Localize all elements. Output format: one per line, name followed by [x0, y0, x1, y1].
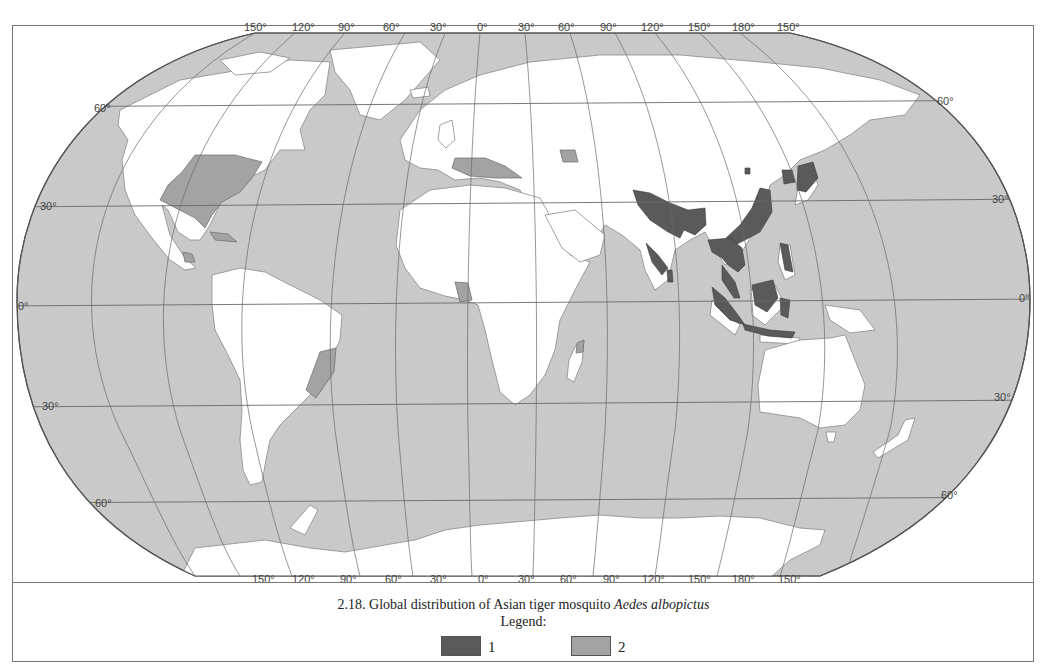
sri-lanka	[667, 270, 673, 282]
lon-label-bottom: 150°	[688, 573, 711, 585]
legend-swatch-dark	[441, 636, 481, 656]
lon-label-top: 60°	[383, 21, 400, 33]
lon-label-top: 90°	[600, 21, 617, 33]
lat-label-right: 0°	[1019, 292, 1030, 304]
legend-label: 2	[618, 638, 626, 656]
lon-label-top: 60°	[558, 21, 575, 33]
lon-label-bottom: 90°	[340, 573, 357, 585]
legend-item-2: 2	[571, 634, 626, 656]
lat-label-left: 60°	[94, 102, 111, 114]
lon-label-bottom: 90°	[603, 573, 620, 585]
lon-label-top: 150°	[688, 21, 711, 33]
australia	[758, 335, 865, 428]
legend: 1 2	[0, 634, 1047, 656]
lon-label-top: 180°	[732, 21, 755, 33]
lat-label-left: 30°	[40, 200, 57, 212]
lat-label-right: 60°	[941, 489, 958, 501]
lon-label-bottom: 150°	[252, 573, 275, 585]
legend-label: 1	[488, 638, 496, 656]
world-map: 150° 120° 90° 60° 30° 0° 30° 60° 90° 120…	[0, 0, 1047, 590]
lat-label-right: 30°	[992, 193, 1009, 205]
lon-label-bottom: 150°	[778, 573, 801, 585]
lon-label-bottom: 30°	[430, 573, 447, 585]
caption-number: 2.18.	[338, 597, 366, 612]
lat-label-left: 30°	[42, 400, 59, 412]
lon-label-top: 0°	[477, 21, 488, 33]
legend-title: Legend:	[0, 614, 1047, 630]
lon-label-top: 30°	[518, 21, 535, 33]
lon-label-top: 150°	[244, 21, 267, 33]
caption-text: Global distribution of Asian tiger mosqu…	[369, 597, 611, 612]
lon-label-top: 120°	[292, 21, 315, 33]
lon-label-top: 150°	[777, 21, 800, 33]
lon-label-bottom: 180°	[732, 573, 755, 585]
lon-label-top: 90°	[338, 21, 355, 33]
lat-label-right: 30°	[994, 391, 1011, 403]
lon-label-bottom: 60°	[560, 573, 577, 585]
lon-label-bottom: 120°	[292, 573, 315, 585]
caption-species: Aedes albopictus	[614, 597, 709, 612]
lon-label-top: 120°	[641, 21, 664, 33]
lat-label-left: 60°	[95, 497, 112, 509]
lon-label-bottom: 120°	[642, 573, 665, 585]
longitude-labels-top: 150° 120° 90° 60° 30° 0° 30° 60° 90° 120…	[244, 21, 800, 33]
figure-caption: 2.18. Global distribution of Asian tiger…	[0, 597, 1047, 613]
legend-item-1: 1	[441, 634, 496, 656]
lat-label-left: 0°	[18, 300, 29, 312]
lon-label-bottom: 30°	[518, 573, 535, 585]
lon-label-bottom: 60°	[385, 573, 402, 585]
caption-divider	[12, 582, 1034, 583]
legend-swatch-light	[571, 636, 611, 656]
lon-label-top: 30°	[430, 21, 447, 33]
lon-label-bottom: 0°	[478, 573, 489, 585]
lat-label-right: 60°	[937, 95, 954, 107]
caucasus	[560, 150, 578, 162]
